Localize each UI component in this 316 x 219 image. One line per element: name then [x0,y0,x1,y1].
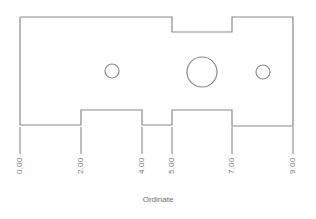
part-drawing [0,0,316,219]
left-small-hole [105,64,119,78]
ordinate-dimension-label: 0.00 [15,158,24,174]
ordinate-dimension-label: 9.00 [288,158,297,174]
part-outline [20,17,293,126]
holes-group [105,57,270,87]
right-small-hole [256,65,270,79]
ordinate-dimension-label: 7.00 [227,158,236,174]
ordinate-dimension-label: 4.00 [137,158,146,174]
ordinate-dimension-label: 2.00 [76,158,85,174]
center-large-hole [187,57,217,87]
extension-lines-group [20,127,293,154]
drawing-caption: Ordinate [0,195,316,204]
ordinate-dimension-label: 5.00 [167,158,176,174]
